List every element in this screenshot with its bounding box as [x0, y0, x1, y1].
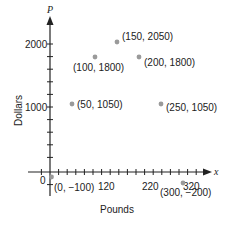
point-label: (0, −100): [54, 182, 94, 193]
data-point: [159, 102, 164, 107]
point-label: (50, 1050): [77, 99, 123, 110]
data-point: [93, 55, 98, 60]
x-axis-arrow-icon: [203, 169, 212, 176]
point-label: (150, 2050): [122, 31, 173, 42]
x-axis-name: x: [213, 166, 219, 177]
x-axis-title: Pounds: [100, 204, 134, 215]
data-point: [115, 40, 120, 45]
data-point: [49, 175, 54, 180]
point-label: (300, −200): [160, 187, 211, 198]
scatter-chart: P x 2000 1000 0 120 220 320 Dollars Poun…: [0, 0, 228, 228]
data-point: [181, 181, 186, 186]
point-label: (100, 1800): [73, 62, 124, 73]
x-tick-label-220: 220: [142, 181, 159, 192]
point-label: (200, 1800): [144, 57, 195, 68]
x-tick-label-120: 120: [98, 181, 115, 192]
point-label: (250, 1050): [166, 102, 217, 113]
data-point: [137, 55, 142, 60]
x-tick-label-0: 0: [40, 175, 46, 186]
y-axis-arrow-icon: [47, 16, 54, 25]
y-axis-name: P: [46, 4, 53, 15]
y-tick-label-1000: 1000: [25, 102, 48, 113]
y-axis-title: Dollars: [13, 95, 24, 126]
data-point: [70, 102, 75, 107]
y-tick-label-2000: 2000: [25, 39, 48, 50]
